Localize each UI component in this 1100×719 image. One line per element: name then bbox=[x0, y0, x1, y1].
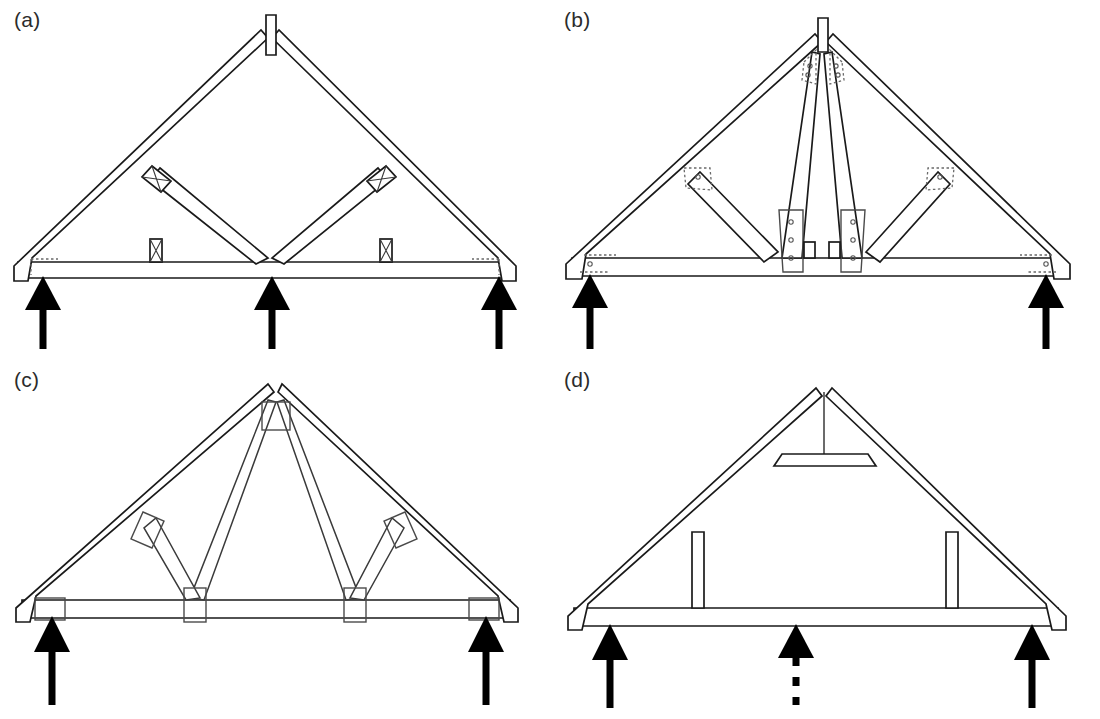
support-arrow-mid-d bbox=[778, 624, 814, 705]
right-inner-web-b bbox=[824, 52, 862, 258]
support-arrow-right-b bbox=[1028, 274, 1064, 349]
panel-d: (d) bbox=[550, 360, 1100, 719]
collar-tie-d bbox=[774, 454, 876, 466]
chord-block-left-a bbox=[150, 239, 162, 262]
support-arrow-left-b bbox=[572, 274, 608, 349]
support-arrow-right-c bbox=[468, 616, 504, 705]
support-arrow-right-d bbox=[1014, 624, 1050, 708]
panel-b-drawing bbox=[550, 0, 1100, 359]
left-inner-web-b bbox=[782, 52, 820, 258]
bottom-chord-b bbox=[572, 258, 1062, 276]
bottom-chord-a bbox=[18, 262, 508, 278]
left-vertical-post-d bbox=[692, 532, 704, 608]
left-outer-web-b bbox=[688, 172, 778, 262]
apex-ridge-block-a bbox=[266, 15, 276, 55]
bottom-chord-c bbox=[22, 600, 510, 618]
support-arrow-left-c bbox=[34, 616, 70, 705]
truss-configuration-figure: (a) bbox=[0, 0, 1100, 719]
bottom-chord-d bbox=[574, 608, 1058, 626]
chord-block-right-a bbox=[380, 239, 392, 262]
panel-a-drawing bbox=[0, 0, 550, 359]
support-arrow-left-a bbox=[25, 276, 61, 349]
right-vertical-post-d bbox=[946, 532, 958, 608]
panel-b: (b) bbox=[550, 0, 1100, 359]
apex-ridge-block-b bbox=[818, 18, 828, 52]
panel-d-drawing bbox=[550, 360, 1100, 719]
panel-c-drawing bbox=[0, 360, 550, 719]
support-arrow-left-d bbox=[592, 624, 628, 708]
support-arrow-right-a bbox=[481, 276, 517, 349]
right-outer-web-b bbox=[866, 172, 950, 262]
panel-a: (a) bbox=[0, 0, 550, 359]
panel-c: (c) bbox=[0, 360, 550, 719]
support-arrow-mid-a bbox=[254, 276, 290, 349]
